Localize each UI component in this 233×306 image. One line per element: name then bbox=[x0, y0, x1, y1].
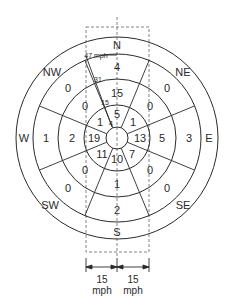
label-se: SE bbox=[176, 199, 191, 211]
svg-text:0: 0 bbox=[82, 164, 88, 176]
svg-text:1: 1 bbox=[130, 116, 136, 128]
svg-text:15: 15 bbox=[127, 274, 139, 285]
label-n: N bbox=[113, 39, 121, 51]
label-sw: SW bbox=[41, 199, 59, 211]
svg-text:0: 0 bbox=[164, 82, 170, 94]
arrow-icon bbox=[86, 265, 92, 269]
svg-text:0: 0 bbox=[65, 82, 71, 94]
svg-text:0: 0 bbox=[65, 182, 71, 194]
wind-rose-diagram: N NE E SE S SW W NW 5 1 13 7 10 11 19 1 … bbox=[0, 0, 233, 306]
svg-text:3: 3 bbox=[186, 132, 192, 144]
svg-text:15: 15 bbox=[101, 99, 109, 106]
arrow-icon bbox=[117, 265, 123, 269]
svg-text:31: 31 bbox=[94, 76, 102, 83]
label-nw: NW bbox=[43, 66, 62, 78]
label-w: W bbox=[19, 132, 30, 144]
label-e: E bbox=[205, 132, 212, 144]
svg-text:10: 10 bbox=[111, 153, 123, 165]
svg-text:2: 2 bbox=[69, 132, 75, 144]
svg-text:1: 1 bbox=[43, 132, 49, 144]
svg-text:mph: mph bbox=[123, 285, 142, 296]
svg-text:19: 19 bbox=[88, 132, 100, 144]
svg-text:11: 11 bbox=[96, 148, 107, 160]
svg-text:4: 4 bbox=[109, 120, 113, 127]
svg-text:1: 1 bbox=[114, 178, 120, 190]
svg-text:4: 4 bbox=[114, 61, 120, 73]
svg-text:47 mph: 47 mph bbox=[84, 52, 107, 60]
svg-text:2: 2 bbox=[114, 204, 120, 216]
svg-text:15: 15 bbox=[96, 274, 108, 285]
svg-text:5: 5 bbox=[159, 132, 165, 144]
svg-text:0: 0 bbox=[164, 182, 170, 194]
third-ring-values: 4 0 3 0 2 0 1 0 bbox=[43, 61, 192, 216]
dimension-labels: 15 mph 15 mph bbox=[92, 274, 142, 296]
svg-text:0: 0 bbox=[147, 100, 153, 112]
svg-text:13: 13 bbox=[134, 132, 146, 144]
dimension-lines bbox=[86, 258, 149, 272]
svg-text:5: 5 bbox=[114, 108, 120, 120]
inner-ring-values: 5 1 13 7 10 11 19 1 bbox=[88, 108, 146, 165]
svg-text:mph: mph bbox=[92, 285, 111, 296]
svg-text:0: 0 bbox=[82, 100, 88, 112]
svg-text:15: 15 bbox=[111, 87, 123, 99]
label-s: S bbox=[113, 226, 120, 238]
svg-text:7: 7 bbox=[129, 148, 135, 160]
label-ne: NE bbox=[175, 66, 190, 78]
svg-text:0: 0 bbox=[147, 164, 153, 176]
arrow-icon bbox=[143, 265, 149, 269]
svg-text:1: 1 bbox=[97, 116, 103, 128]
